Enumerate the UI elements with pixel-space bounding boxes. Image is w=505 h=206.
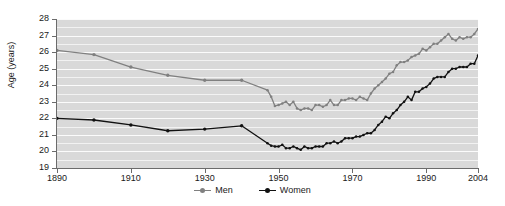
data-point-marker: [440, 39, 443, 42]
x-axis-tick-label: 1990: [406, 173, 446, 183]
legend-swatch-men: [194, 186, 211, 195]
y-axis-tick: [52, 102, 57, 103]
data-point-marker: [444, 36, 447, 39]
x-axis-tick-label: 1910: [111, 173, 151, 183]
data-point-marker: [359, 96, 362, 99]
x-axis-tick-label: 1950: [259, 173, 299, 183]
data-point-marker: [166, 74, 169, 77]
legend-label-men: Men: [215, 186, 233, 195]
data-point-marker: [340, 99, 343, 102]
data-point-marker: [285, 101, 288, 104]
data-point-marker: [307, 107, 310, 110]
data-point-marker: [277, 104, 280, 107]
y-axis-tick-label: 23: [39, 97, 49, 106]
y-axis-tick-label: 28: [39, 14, 49, 23]
data-point-marker: [447, 33, 450, 36]
data-point-marker: [418, 53, 421, 56]
data-point-marker: [429, 46, 432, 49]
series-line: [57, 55, 478, 149]
data-point-marker: [432, 43, 435, 46]
data-point-marker: [473, 33, 476, 36]
data-point-marker: [392, 71, 395, 74]
x-axis-tick-label: 1970: [332, 173, 372, 183]
data-point-marker: [366, 132, 369, 135]
data-point-marker: [299, 109, 302, 112]
data-point-marker: [288, 104, 291, 107]
y-axis-tick-label: 27: [39, 31, 49, 40]
data-point-marker: [288, 147, 291, 150]
data-point-marker: [444, 76, 447, 79]
data-point-marker: [399, 61, 402, 64]
legend-item-men: Men: [194, 186, 233, 195]
data-point-marker: [311, 147, 314, 150]
data-point-marker: [451, 67, 454, 70]
data-point-marker: [403, 101, 406, 104]
data-point-marker: [469, 62, 472, 64]
data-point-marker: [458, 66, 461, 69]
data-point-marker: [129, 123, 132, 126]
data-point-marker: [277, 145, 280, 148]
data-point-marker: [396, 64, 399, 67]
data-point-marker: [396, 109, 399, 112]
data-point-marker: [303, 145, 306, 148]
chart-legend: Men Women: [0, 186, 505, 195]
data-point-marker: [359, 135, 362, 138]
data-point-marker: [462, 66, 465, 69]
data-point-marker: [203, 79, 206, 82]
data-point-marker: [299, 149, 302, 152]
data-point-marker: [270, 144, 273, 147]
data-point-marker: [381, 81, 384, 84]
data-point-marker: [333, 140, 336, 143]
y-axis-tick-label: 20: [39, 146, 49, 155]
data-point-marker: [344, 137, 347, 140]
data-point-marker: [292, 145, 295, 148]
data-point-marker: [366, 99, 369, 102]
y-axis-tick: [52, 85, 57, 86]
legend-item-women: Women: [259, 186, 311, 195]
data-point-marker: [281, 102, 284, 105]
data-point-marker: [370, 132, 373, 135]
data-point-marker: [377, 84, 380, 87]
data-point-marker: [292, 101, 295, 104]
y-axis-tick-label: 19: [39, 163, 49, 172]
y-axis-tick: [52, 52, 57, 53]
data-point-marker: [344, 99, 347, 102]
legend-label-women: Women: [280, 186, 311, 195]
data-point-marker: [425, 86, 428, 89]
legend-swatch-women: [259, 186, 276, 195]
data-point-marker: [388, 72, 391, 75]
data-point-marker: [322, 105, 325, 108]
data-point-marker: [421, 48, 424, 51]
data-point-marker: [285, 147, 288, 150]
data-point-marker: [381, 120, 384, 123]
data-point-marker: [336, 142, 339, 145]
data-point-marker: [377, 124, 380, 127]
data-point-marker: [410, 56, 413, 59]
series-men: [57, 28, 478, 112]
data-point-marker: [414, 91, 417, 94]
data-point-marker: [325, 142, 328, 145]
data-point-marker: [399, 104, 402, 107]
x-axis-line: [56, 168, 479, 169]
data-point-marker: [166, 129, 169, 132]
data-point-marker: [407, 96, 410, 99]
data-point-marker: [314, 145, 317, 148]
data-point-marker: [333, 104, 336, 107]
data-point-marker: [469, 36, 472, 39]
data-point-marker: [296, 147, 299, 150]
data-point-marker: [318, 145, 321, 148]
y-axis-tick: [52, 118, 57, 119]
data-point-marker: [392, 112, 395, 115]
data-point-marker: [384, 115, 387, 118]
data-point-marker: [348, 97, 351, 100]
data-point-marker: [340, 140, 343, 143]
data-point-marker: [57, 49, 59, 52]
data-point-marker: [388, 117, 391, 120]
data-point-marker: [414, 54, 417, 57]
data-point-marker: [410, 99, 413, 102]
data-point-marker: [440, 76, 443, 79]
data-point-marker: [473, 62, 476, 64]
data-point-marker: [348, 137, 351, 140]
x-axis-tick-label: 1890: [37, 173, 77, 183]
data-point-marker: [296, 107, 299, 110]
